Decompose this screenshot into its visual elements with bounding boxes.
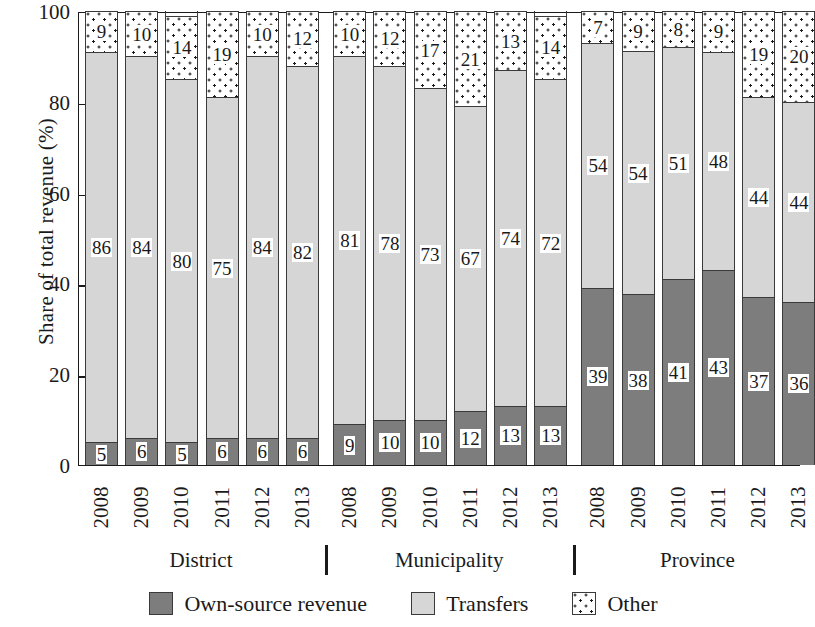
x-tick-label-text: 2013 — [540, 470, 561, 546]
x-tick-label-5: 2013 — [285, 470, 319, 546]
segment-other: 21 — [455, 11, 486, 106]
segment-value-label: 54 — [628, 164, 649, 183]
segment-own-source-revenue: 37 — [743, 297, 774, 465]
segment-other: 9 — [703, 11, 734, 52]
group-separator — [325, 545, 328, 575]
bar-2008[interactable]: 9865 — [85, 11, 118, 465]
y-axis-tick-labels: 020406080100 — [0, 0, 70, 627]
legend-item-tr[interactable]: Transfers — [411, 592, 528, 615]
x-tick-label-text: 2009 — [627, 470, 648, 546]
segment-own-source-revenue: 36 — [783, 302, 814, 465]
segment-value-label: 44 — [748, 188, 769, 207]
segment-transfers: 44 — [743, 97, 774, 297]
segment-value-label: 20 — [788, 47, 809, 66]
bar-2013[interactable]: 204436 — [782, 11, 815, 465]
segment-transfers: 72 — [535, 79, 566, 406]
x-tick-label-10: 2012 — [493, 470, 527, 546]
bar-2013[interactable]: 147213 — [534, 11, 567, 465]
legend-item-own[interactable]: Own-source revenue — [149, 592, 367, 615]
bar-2010[interactable]: 14805 — [165, 11, 198, 465]
bar-2013[interactable]: 12826 — [286, 11, 319, 465]
bar-2011[interactable]: 216712 — [454, 11, 487, 465]
segment-value-label: 13 — [500, 32, 521, 51]
x-tick-label-text: 2010 — [667, 470, 688, 546]
segment-value-label: 84 — [131, 238, 152, 257]
segment-transfers: 74 — [495, 70, 526, 406]
segment-own-source-revenue: 5 — [166, 442, 197, 465]
bar-2008[interactable]: 10819 — [333, 11, 366, 465]
x-tick-label-3: 2011 — [205, 470, 239, 546]
segment-own-source-revenue: 10 — [374, 420, 405, 465]
segment-value-label: 9 — [632, 22, 644, 41]
segment-value-label: 19 — [748, 45, 769, 64]
bar-2008[interactable]: 75439 — [581, 11, 614, 465]
segment-value-label: 39 — [587, 367, 608, 386]
segment-other: 19 — [207, 11, 238, 97]
bar-2010[interactable]: 85141 — [662, 11, 695, 465]
x-tick-label-text: 2009 — [131, 470, 152, 546]
segment-transfers: 51 — [663, 47, 694, 279]
legend-item-oth[interactable]: Other — [572, 592, 657, 615]
segment-own-source-revenue: 6 — [207, 438, 238, 465]
bar-2012[interactable]: 194437 — [742, 11, 775, 465]
y-tick-label-20: 20 — [8, 365, 70, 386]
chart-legend: Own-source revenueTransfersOther — [0, 592, 807, 615]
segment-own-source-revenue: 38 — [623, 294, 654, 465]
segment-value-label: 12 — [460, 429, 481, 448]
legend-label: Own-source revenue — [184, 593, 367, 615]
segment-own-source-revenue: 41 — [663, 279, 694, 465]
segment-transfers: 84 — [126, 56, 157, 437]
group-label-district: District — [84, 548, 318, 573]
bar-2012[interactable]: 10846 — [246, 11, 279, 465]
segment-transfers: 44 — [783, 102, 814, 302]
segment-value-label: 9 — [344, 436, 356, 455]
bar-2011[interactable]: 94843 — [702, 11, 735, 465]
segment-own-source-revenue: 9 — [334, 424, 365, 465]
segment-value-label: 9 — [713, 22, 725, 41]
segment-value-label: 75 — [212, 259, 233, 278]
x-tick-label-16: 2012 — [741, 470, 775, 546]
x-tick-label-text: 2008 — [91, 470, 112, 546]
x-tick-label-1: 2009 — [124, 470, 158, 546]
x-tick-label-6: 2008 — [332, 470, 366, 546]
bar-2010[interactable]: 177310 — [414, 11, 447, 465]
x-tick-label-15: 2011 — [701, 470, 735, 546]
segment-value-label: 36 — [788, 374, 809, 393]
segment-transfers: 67 — [455, 106, 486, 410]
segment-value-label: 6 — [136, 442, 148, 461]
x-tick-label-text: 2009 — [379, 470, 400, 546]
legend-label: Other — [607, 593, 657, 615]
segment-value-label: 82 — [292, 243, 313, 262]
x-tick-label-text: 2011 — [211, 470, 232, 546]
segment-value-label: 6 — [297, 442, 309, 461]
segment-value-label: 86 — [91, 238, 112, 257]
bar-2009[interactable]: 95438 — [622, 11, 655, 465]
segment-own-source-revenue: 6 — [247, 438, 278, 465]
segment-value-label: 72 — [540, 234, 561, 253]
x-tick-label-text: 2012 — [500, 470, 521, 546]
segment-own-source-revenue: 13 — [495, 406, 526, 465]
bar-2009[interactable]: 127810 — [373, 11, 406, 465]
x-tick-label-text: 2010 — [419, 470, 440, 546]
segment-transfers: 80 — [166, 79, 197, 442]
segment-value-label: 51 — [668, 154, 689, 173]
segment-value-label: 67 — [460, 249, 481, 268]
segment-value-label: 10 — [339, 25, 360, 44]
x-tick-label-9: 2011 — [453, 470, 487, 546]
segment-value-label: 13 — [500, 426, 521, 445]
bar-2012[interactable]: 137413 — [494, 11, 527, 465]
segment-other: 10 — [334, 11, 365, 56]
segment-other: 12 — [374, 11, 405, 65]
bar-2011[interactable]: 19756 — [206, 11, 239, 465]
segment-value-label: 5 — [176, 445, 188, 464]
segment-value-label: 13 — [540, 426, 561, 445]
segment-value-label: 80 — [171, 252, 192, 271]
x-tick-label-8: 2010 — [413, 470, 447, 546]
bar-2009[interactable]: 10846 — [125, 11, 158, 465]
legend-swatch-own — [149, 592, 173, 615]
group-label-municipality: Municipality — [332, 548, 566, 573]
segment-value-label: 43 — [708, 358, 729, 377]
legend-label: Transfers — [446, 593, 528, 615]
segment-transfers: 48 — [703, 52, 734, 270]
